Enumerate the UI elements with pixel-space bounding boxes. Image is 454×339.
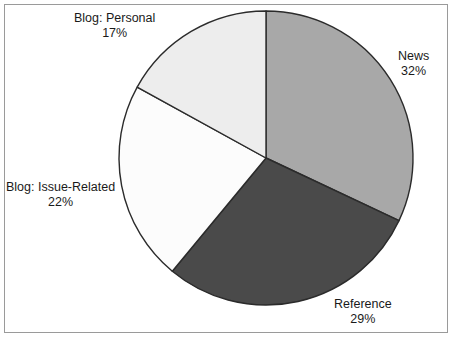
pie-label-blog-issue-related-name: Blog: Issue-Related xyxy=(6,180,115,195)
pie-label-news: News 32% xyxy=(398,49,429,79)
pie-label-reference: Reference 29% xyxy=(334,297,392,327)
pie-label-news-name: News xyxy=(398,49,429,64)
pie-label-blog-personal-value: 17% xyxy=(74,26,155,41)
pie-label-blog-personal-name: Blog: Personal xyxy=(74,11,155,26)
pie-label-news-value: 32% xyxy=(398,64,429,79)
pie-slice-group xyxy=(119,11,413,305)
pie-chart-graphic xyxy=(0,0,454,339)
pie-label-blog-issue-related: Blog: Issue-Related 22% xyxy=(6,180,115,210)
pie-label-blog-issue-related-value: 22% xyxy=(6,195,115,210)
pie-label-reference-value: 29% xyxy=(334,312,392,327)
pie-label-blog-personal: Blog: Personal 17% xyxy=(74,11,155,41)
pie-chart-screenshot: News 32% Reference 29% Blog: Issue-Relat… xyxy=(0,0,454,339)
pie-label-reference-name: Reference xyxy=(334,297,392,312)
